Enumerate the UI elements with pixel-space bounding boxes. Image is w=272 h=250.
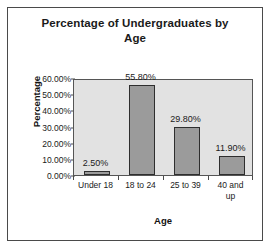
x-axis-category-label-line: 25 to 39: [163, 180, 208, 191]
x-axis-title: Age: [73, 215, 253, 226]
chart-frame: Percentage of Undergraduates by Age Perc…: [7, 7, 263, 241]
x-axis-category-label-line: 40 and: [208, 180, 253, 191]
bar-slot: [119, 80, 164, 175]
bar[interactable]: [84, 171, 110, 175]
bar-slot: [209, 80, 254, 175]
y-axis-tick-label: 10.00%: [19, 155, 71, 165]
y-axis-tick-label: 30.00%: [19, 123, 71, 133]
x-axis-ticks: Under 1818 to 2425 to 3940 andup: [73, 178, 253, 212]
bar-slot: [164, 80, 209, 175]
bar[interactable]: [129, 85, 155, 175]
x-axis-category-label-line: 18 to 24: [118, 180, 163, 191]
bar-data-label: 11.90%: [216, 143, 246, 153]
y-axis-tick-label: 50.00%: [19, 90, 71, 100]
x-axis-category-label: 40 andup: [208, 180, 253, 202]
y-axis-tick-label: 0.00%: [19, 171, 71, 181]
chart-title: Percentage of Undergraduates by Age: [22, 16, 248, 46]
chart-title-line-1: Percentage of Undergraduates by: [22, 16, 248, 31]
bar-data-label: 29.80%: [170, 114, 201, 124]
bar[interactable]: [219, 156, 245, 175]
y-axis-ticks: 0.00%10.00%20.00%30.00%40.00%50.00%60.00…: [13, 79, 71, 176]
x-axis-category-label: 25 to 39: [163, 180, 208, 191]
x-axis-category-label-line: Under 18: [73, 180, 118, 191]
x-axis-category-label: 18 to 24: [118, 180, 163, 191]
y-axis-tick-label: 40.00%: [19, 106, 71, 116]
x-axis-category-label: Under 18: [73, 180, 118, 191]
chart-title-line-2: Age: [22, 31, 248, 46]
bar[interactable]: [174, 127, 200, 175]
y-axis-tick-label: 20.00%: [19, 139, 71, 149]
y-axis-tick-label: 60.00%: [19, 74, 71, 84]
x-axis-category-label-line: up: [208, 191, 253, 202]
bar-data-label: 55.80%: [125, 72, 156, 82]
bar-data-label: 2.50%: [83, 158, 109, 168]
